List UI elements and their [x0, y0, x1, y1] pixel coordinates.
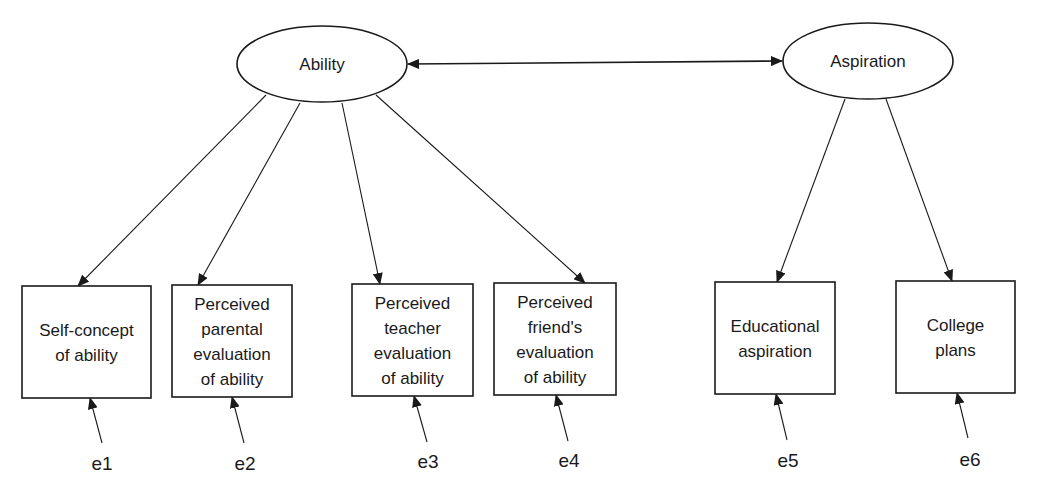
observed-label-line: Self-concept	[39, 321, 134, 340]
loading-arrow-v4	[376, 95, 585, 283]
error-arrow-e5	[776, 394, 787, 440]
observed-box	[896, 281, 1015, 393]
latent-aspiration: Aspiration	[783, 23, 953, 99]
error-arrow-e3	[414, 396, 427, 442]
observed-v2: Perceivedparentalevaluationof ability	[172, 285, 292, 397]
loading-arrow-v6	[886, 99, 952, 281]
observed-label-line: of ability	[55, 346, 118, 365]
observed-label-line: friend's	[528, 318, 582, 337]
loading-arrow-v3	[342, 103, 380, 284]
loading-arrow-v2	[198, 103, 300, 285]
error-label-e4: e4	[558, 450, 580, 471]
observed-label-line: Educational	[731, 317, 820, 336]
error-label-e2: e2	[234, 453, 255, 474]
observed-box	[22, 286, 151, 398]
error-label-e1: e1	[91, 453, 112, 474]
observed-label-line: Perceived	[194, 295, 270, 314]
error-arrow-e4	[556, 395, 568, 441]
observed-label-line: parental	[201, 320, 262, 339]
observed-label-line: evaluation	[374, 344, 452, 363]
observed-label-line: College	[927, 316, 985, 335]
observed-label-line: of ability	[381, 369, 444, 388]
observed-label-line: evaluation	[193, 345, 271, 364]
latent-label: Ability	[299, 55, 345, 74]
error-label-e3: e3	[417, 451, 438, 472]
loading-arrow-v5	[777, 99, 845, 282]
latent-ability: Ability	[237, 26, 407, 102]
observed-v6: Collegeplans	[896, 281, 1015, 393]
observed-label-line: of ability	[524, 368, 587, 387]
observed-label-line: Perceived	[375, 294, 451, 313]
observed-box	[715, 282, 835, 394]
error-arrow-e6	[957, 393, 968, 438]
observed-label-line: teacher	[384, 319, 441, 338]
observed-v3: Perceivedteacherevaluationof ability	[352, 284, 473, 396]
observed-v1: Self-conceptof ability	[22, 286, 151, 398]
nodes-layer: e1e2e3e4e5e6AbilityAspirationSelf-concep…	[22, 23, 1015, 474]
observed-label-line: evaluation	[516, 343, 594, 362]
observed-v5: Educationalaspiration	[715, 282, 835, 394]
observed-label-line: aspiration	[738, 342, 812, 361]
observed-label-line: Perceived	[517, 293, 593, 312]
observed-label-line: plans	[935, 341, 976, 360]
latent-label: Aspiration	[830, 52, 906, 71]
error-label-e5: e5	[777, 450, 798, 471]
sem-diagram: e1e2e3e4e5e6AbilityAspirationSelf-concep…	[0, 0, 1037, 485]
loading-arrow-v1	[78, 95, 266, 286]
error-label-e6: e6	[959, 449, 980, 470]
observed-v4: Perceivedfriend'sevaluationof ability	[494, 283, 616, 395]
correlation-arrow	[408, 61, 782, 64]
error-arrow-e2	[232, 397, 244, 443]
error-arrow-e1	[90, 398, 102, 443]
observed-label-line: of ability	[201, 370, 264, 389]
